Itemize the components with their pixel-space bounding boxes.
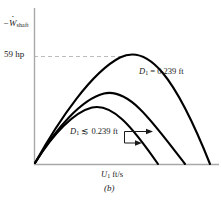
inner-annotation-units: ft [113,126,118,136]
y-axis-label-symbol: W [9,19,17,28]
inner-annotation-subscript: 1 [76,130,79,136]
reference-line-label: 59 hp [4,50,24,59]
figure-container: −Wshaft 59 hp D1 = 0.239 ft D1 ≲ 0.239 f… [0,0,221,200]
inner-annotation-value: 0.239 [91,126,110,136]
inner-annotation-relation: ≲ [81,126,89,136]
y-axis-label-subscript: shaft [17,22,29,28]
figure-caption-letter: b [107,183,112,193]
outer-annotation-relation: = [150,66,155,76]
x-axis-label-subscript: 1 [107,173,110,179]
outer-annotation-subscript: 1 [145,70,148,76]
outer-annotation-value: 0.239 [157,66,176,76]
x-axis-label-units: ft/s [112,169,123,179]
figure-caption: (b) [104,184,115,193]
arrowhead-upper [146,129,153,135]
outer-curve-annotation: D1 = 0.239 ft [139,67,184,76]
outer-annotation-units: ft [178,66,183,76]
x-axis-label: U1 ft/s [101,170,123,179]
y-axis-label: −Wshaft [3,19,29,28]
inner-curve-annotation: D1 ≲ 0.239 ft [70,127,118,136]
